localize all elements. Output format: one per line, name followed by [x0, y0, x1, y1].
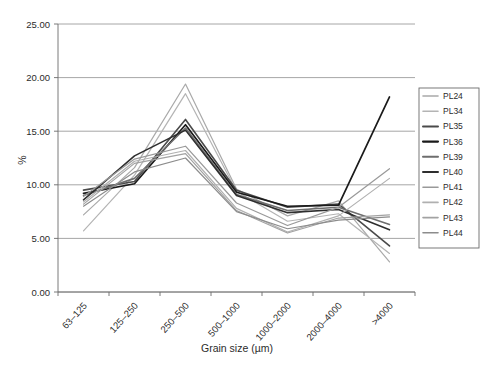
legend-label-PL43: PL43	[443, 213, 463, 223]
x-tick-label: 1000–2000	[253, 300, 293, 343]
line-chart: 0.005.0010.0015.0020.0025.00 63–125125–2…	[0, 0, 486, 376]
y-tick-label: 15.00	[26, 126, 50, 137]
y-tick-label: 10.00	[26, 179, 50, 190]
legend-label-PL35: PL35	[443, 121, 463, 131]
series-line-PL24	[84, 84, 390, 262]
x-tick-label: 250–500	[158, 300, 191, 335]
x-tick-label: 63–125	[60, 300, 89, 331]
y-tick-label: 25.00	[26, 19, 50, 30]
legend-label-PL40: PL40	[443, 167, 463, 177]
y-axis-ticks: 0.005.0010.0015.0020.0025.00	[26, 19, 58, 298]
x-tick-label: 500–1000	[206, 300, 242, 339]
legend-label-PL24: PL24	[443, 91, 463, 101]
x-axis-title: Grain size (µm)	[201, 342, 273, 354]
x-axis-ticks: 63–125125–250250–500500–10001000–2000200…	[58, 292, 415, 343]
legend-label-PL41: PL41	[443, 182, 463, 192]
y-tick-label: 20.00	[26, 72, 50, 83]
legend-label-PL44: PL44	[443, 228, 463, 238]
x-tick-label: 125–250	[107, 300, 140, 335]
series-line-PL34	[84, 94, 390, 254]
legend-label-PL36: PL36	[443, 137, 463, 147]
chart-legend: PL24PL34PL35PL36PL39PL40PL41PL42PL43PL44	[419, 88, 479, 248]
series-group	[84, 84, 390, 262]
series-line-PL35	[84, 119, 390, 245]
series-line-PL41	[84, 146, 390, 225]
legend-label-PL34: PL34	[443, 106, 463, 116]
y-tick-label: 0.00	[32, 287, 51, 298]
y-tick-label: 5.00	[32, 233, 51, 244]
y-axis-title: %	[16, 155, 28, 164]
legend-label-PL42: PL42	[443, 197, 463, 207]
x-tick-label: >4000	[369, 300, 395, 327]
legend-label-PL39: PL39	[443, 152, 463, 162]
x-tick-label: 2000–4000	[304, 300, 344, 343]
chart-page: 0.005.0010.0015.0020.0025.00 63–125125–2…	[0, 0, 486, 376]
